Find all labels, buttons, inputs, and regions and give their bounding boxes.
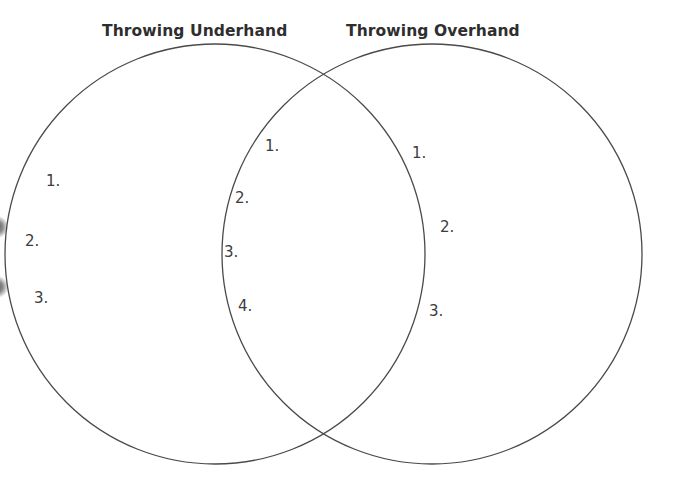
left-item-1[interactable]: 1.	[46, 174, 60, 189]
overlap-item-2[interactable]: 2.	[235, 191, 249, 206]
right-item-1[interactable]: 1.	[412, 146, 426, 161]
right-item-2[interactable]: 2.	[440, 220, 454, 235]
right-item-3[interactable]: 3.	[429, 304, 443, 319]
overlap-item-3[interactable]: 3.	[224, 245, 238, 260]
left-item-2[interactable]: 2.	[25, 234, 39, 249]
circle-right	[222, 44, 642, 464]
left-item-3[interactable]: 3.	[34, 291, 48, 306]
venn-diagram	[0, 0, 676, 484]
circle-left	[5, 44, 425, 464]
overlap-item-4[interactable]: 4.	[238, 299, 252, 314]
overlap-item-1[interactable]: 1.	[265, 139, 279, 154]
